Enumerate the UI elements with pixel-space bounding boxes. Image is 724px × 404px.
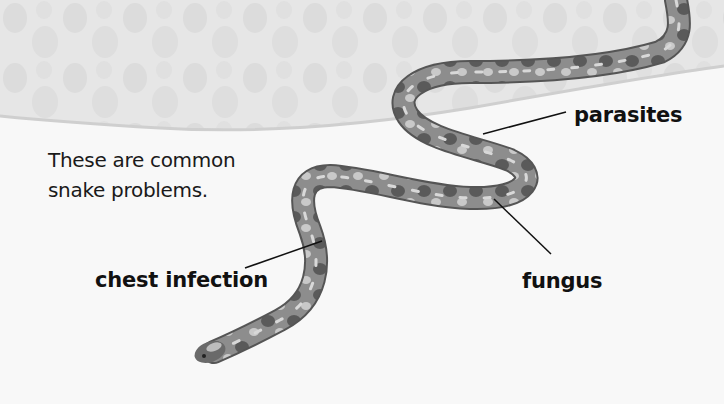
intro-line-1: These are common [48, 145, 248, 175]
parasites-leader-line [483, 112, 566, 134]
intro-line-2: snake problems. [48, 175, 248, 205]
intro-text: These are common snake problems. [48, 145, 248, 205]
page: These are common snake problems. parasit… [0, 0, 724, 404]
snake-eye [202, 354, 206, 358]
fungus-leader-line [494, 199, 551, 254]
label-parasites: parasites [574, 103, 682, 127]
label-fungus: fungus [522, 269, 602, 293]
label-chest-infection: chest infection [95, 268, 268, 292]
